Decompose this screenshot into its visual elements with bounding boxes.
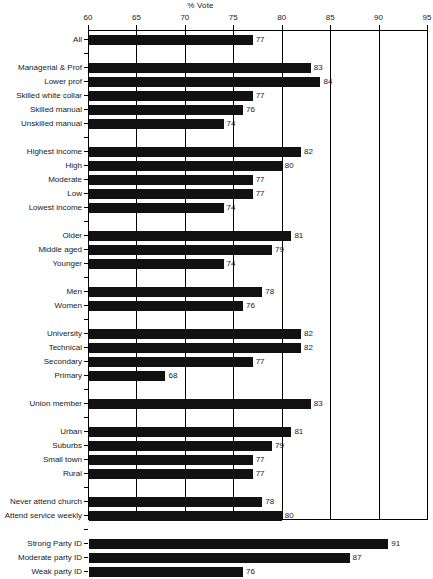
y-tick bbox=[84, 529, 88, 530]
y-tick bbox=[84, 557, 88, 558]
category-label: Highest income bbox=[27, 147, 82, 157]
bar-value-label: 76 bbox=[246, 567, 255, 577]
category-label: Managerial & Prof bbox=[18, 63, 82, 73]
category-label: Primary bbox=[54, 371, 82, 381]
category-label: Skilled white collar bbox=[16, 91, 82, 101]
bar-row: 76 bbox=[88, 565, 427, 579]
category-label: Moderate bbox=[48, 175, 82, 185]
category-label: High bbox=[66, 161, 82, 171]
x-tick-label-90: 90 bbox=[374, 13, 383, 22]
category-label: Suburbs bbox=[52, 441, 82, 451]
chart-title-text: % Vote bbox=[187, 1, 214, 10]
category-label: Older bbox=[62, 231, 82, 241]
x-tick-label-95: 95 bbox=[423, 13, 432, 22]
category-label: Urban bbox=[60, 427, 82, 437]
chart-title: % Vote bbox=[0, 1, 433, 10]
category-label: Men bbox=[66, 287, 82, 297]
category-label: Rural bbox=[63, 469, 82, 479]
bar-value-label: 87 bbox=[353, 553, 362, 563]
category-label: Younger bbox=[52, 259, 82, 269]
category-label: Secondary bbox=[44, 357, 82, 367]
group-spacer bbox=[88, 523, 427, 537]
x-tick-label-70: 70 bbox=[180, 13, 189, 22]
category-label: Unskilled manual bbox=[21, 119, 82, 129]
category-label: All bbox=[73, 35, 82, 45]
x-tick-label-60: 60 bbox=[84, 13, 93, 22]
bar bbox=[89, 553, 350, 563]
category-label: Weak party ID bbox=[31, 567, 82, 577]
category-label: Lowest income bbox=[29, 203, 82, 213]
x-tick-label-65: 65 bbox=[132, 13, 141, 22]
category-label: University bbox=[47, 329, 82, 339]
category-label: Never attend church bbox=[10, 497, 82, 507]
y-tick bbox=[84, 543, 88, 544]
x-tick-label-80: 80 bbox=[277, 13, 286, 22]
bar-row: 91 bbox=[88, 537, 427, 551]
x-tick-label-85: 85 bbox=[326, 13, 335, 22]
bar bbox=[89, 539, 388, 549]
category-label: Attend service weekly bbox=[5, 511, 82, 521]
category-label: Strong Party ID bbox=[27, 539, 82, 549]
y-tick bbox=[84, 571, 88, 572]
category-label: Lower prof bbox=[44, 77, 82, 87]
bar bbox=[89, 567, 243, 577]
category-label: Small town bbox=[43, 455, 82, 465]
category-label: Union member bbox=[30, 399, 82, 409]
category-label: Women bbox=[55, 301, 82, 311]
category-label: Moderate party ID bbox=[18, 553, 82, 563]
category-label: Low bbox=[67, 189, 82, 199]
category-label: Skilled manual bbox=[30, 105, 82, 115]
bar-value-label: 91 bbox=[391, 539, 400, 549]
category-label: Middle aged bbox=[38, 245, 82, 255]
x-tick-label-75: 75 bbox=[229, 13, 238, 22]
category-labels: AllManagerial & ProfLower profSkilled wh… bbox=[0, 30, 433, 520]
category-label: Technical bbox=[49, 343, 82, 353]
bar-row: 87 bbox=[88, 551, 427, 565]
